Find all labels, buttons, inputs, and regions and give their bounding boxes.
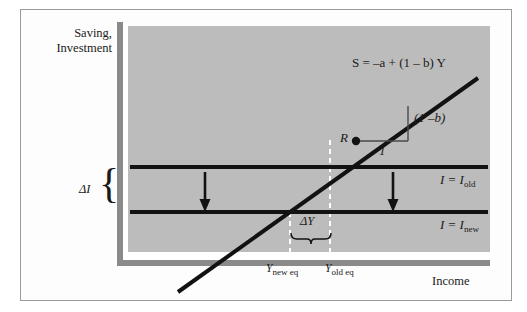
slope-rise-label: (1 –b) [414,110,445,125]
investment-new-prefix: I = I [440,217,464,232]
investment-new-label: I = Inew [440,217,479,232]
y-axis-title-line2: Investment [56,41,112,55]
y-new-eq-sub: new eq [272,267,298,277]
y-old-eq-label: Yold eq [325,262,354,276]
delta-i-label: ΔI [79,182,91,197]
investment-old-prefix: I = I [440,172,464,187]
investment-new-sub: new [464,224,479,234]
investment-old-sub: old [464,179,476,189]
x-axis [117,260,490,266]
delta-y-label: ΔY [300,214,314,229]
y-axis-title: Saving, Investment [26,26,112,56]
y-axis-title-line1: Saving, [74,26,112,40]
y-old-eq-sub: old eq [331,267,353,277]
slope-run-label: 1 [379,143,386,158]
delta-i-brace: { [99,162,119,204]
y-new-eq-label: Ynew eq [266,262,298,276]
saving-investment-diagram: Saving, Investment Income S = –a + [0,0,527,312]
investment-old-label: I = Iold [440,172,475,187]
point-r-label: R [340,130,348,145]
saving-equation-text: S = –a + (1 – b) Y [352,55,446,70]
x-axis-white-edge [123,252,490,260]
y-axis [117,22,123,260]
x-axis-title: Income [432,274,469,289]
saving-equation-label: S = –a + (1 – b) Y [352,55,446,70]
y-axis-white-edge [123,22,128,260]
